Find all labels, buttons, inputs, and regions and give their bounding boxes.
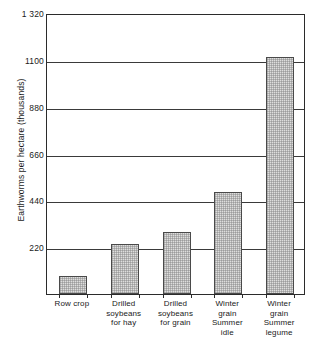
y-axis-tick-label: 220 [4,243,44,253]
x-axis-category-label: Row crop [46,299,98,309]
x-axis-label-line: soybeans [98,309,150,319]
x-axis-category-label: Drilledsoybeansfor grain [150,299,202,328]
y-axis-tick-label: 660 [4,150,44,160]
bar [111,244,139,294]
x-axis-category-label: Drilledsoybeansfor hay [98,299,150,328]
x-axis-tick [59,294,60,298]
x-axis-label-line: Winter [201,299,253,309]
earthworms-bar-chart: Earthworms per hectare (thousands) 22044… [0,0,317,340]
x-axis-tick [191,294,192,298]
plot-area [46,14,305,295]
x-axis-label-line: grain [253,309,305,319]
x-axis-tick [294,294,295,298]
x-axis-tick [266,294,267,298]
y-axis-tick-labels: 22044066088011001 320 [0,0,44,340]
x-axis-label-line: for grain [150,318,202,328]
x-axis-tick [163,294,164,298]
x-axis-tick [111,294,112,298]
y-axis-tick-label: 880 [4,103,44,113]
bar-series [47,15,304,294]
x-axis-label-line: legume [253,328,305,338]
x-axis-label-line: Row crop [46,299,98,309]
bar [163,232,191,294]
x-axis-category-label: WintergrainSummerlegume [253,299,305,337]
y-axis-tick-label: 440 [4,196,44,206]
x-axis-label-line: Summer [201,318,253,328]
x-axis-label-line: for hay [98,318,150,328]
x-axis-tick [87,294,88,298]
x-axis-category-label: WintergrainSummeridle [201,299,253,337]
x-axis-label-line: idle [201,328,253,338]
bar [266,57,294,294]
x-axis-label-line: soybeans [150,309,202,319]
x-axis-category-labels: Row cropDrilledsoybeansfor hayDrilledsoy… [46,299,305,340]
bar [59,276,87,294]
x-axis-tick [242,294,243,298]
x-axis-tick [214,294,215,298]
bar [214,192,242,294]
x-axis-label-line: Summer [253,318,305,328]
y-axis-tick-label: 1 320 [4,9,44,19]
x-axis-label-line: Drilled [150,299,202,309]
x-axis-tick [139,294,140,298]
x-axis-label-line: grain [201,309,253,319]
x-axis-label-line: Winter [253,299,305,309]
y-axis-tick-label: 1100 [4,56,44,66]
x-axis-label-line: Drilled [98,299,150,309]
